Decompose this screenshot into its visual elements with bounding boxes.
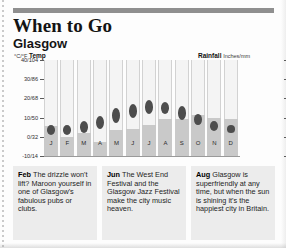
temperature-range-marker [129, 104, 137, 117]
page-edge-shadow-bottom [0, 243, 286, 248]
temperature-range-marker [80, 121, 88, 133]
month-label: M [109, 140, 123, 146]
rainfall-bar [175, 119, 189, 156]
temp-axis-ticks: 40/10430/8620/6810/500/32-10/14 [6, 52, 46, 164]
right-axis-tick-mark [284, 98, 286, 99]
rainfall-bar [224, 119, 238, 156]
header-rule [13, 8, 274, 13]
month-label: N [207, 140, 221, 146]
month-label: F [60, 140, 74, 146]
right-axis-tick-mark [284, 137, 286, 138]
temperature-range-marker [227, 125, 235, 133]
rain-axis-name: Rainfall [198, 52, 221, 59]
temperature-range-marker [145, 100, 153, 113]
month-label: A [93, 140, 107, 146]
chart-baseline [44, 156, 240, 157]
tip-box: Feb The drizzle won't lift? Maroon yours… [13, 166, 97, 240]
month-label: J [142, 140, 156, 146]
month-label: D [224, 140, 238, 146]
month-label: A [158, 140, 172, 146]
tips-row: Feb The drizzle won't lift? Maroon yours… [13, 166, 275, 240]
temperature-range-marker [96, 116, 104, 129]
month-label: J [126, 140, 140, 146]
right-axis-tick-mark [284, 79, 286, 80]
temperature-range-marker [47, 125, 55, 135]
left-axis-tick-label: 20/68 [6, 95, 38, 101]
month-axis-labels: JFMAMJJASOND [44, 140, 240, 150]
tip-box: Jun The West End Festival and the Glasgo… [102, 166, 186, 240]
rainfall-bar [158, 119, 172, 156]
temperature-range-marker [178, 106, 186, 119]
month-label: O [191, 140, 205, 146]
month-label: S [175, 140, 189, 146]
climate-chart: °C/°F Temp Rainfall Inches/mm 40/10430/8… [0, 52, 286, 164]
left-axis-tick-label: 10/50 [6, 115, 38, 121]
left-axis-tick-label: -10/14 [6, 153, 38, 159]
left-axis-tick-label: 0/32 [6, 134, 38, 140]
right-axis-tick-mark [284, 118, 286, 119]
right-axis-tick-mark [284, 156, 286, 157]
tip-box: Aug Glasgow is superfriendly at any time… [191, 166, 275, 240]
left-axis-tick-label: 40/104 [6, 57, 38, 63]
page-title: When to Go [13, 15, 112, 37]
month-label: M [77, 140, 91, 146]
page-canvas: When to Go Glasgow °C/°F Temp Rainfall I… [0, 0, 286, 248]
left-axis-tick-label: 30/86 [6, 76, 38, 82]
rain-axis-ticks: 10/2508/2006/1504/1002/500 [240, 52, 286, 164]
right-axis-tick-mark [284, 60, 286, 61]
page-subtitle: Glasgow [13, 36, 67, 51]
month-label: J [44, 140, 58, 146]
